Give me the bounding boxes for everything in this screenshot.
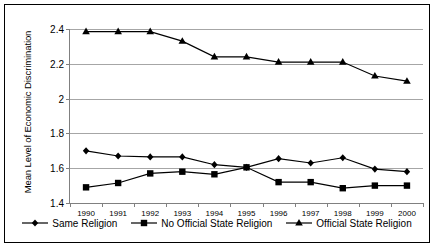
chart-frame: Mean Level of Economic Discrimination 1.… (4, 4, 430, 243)
data-point-marker (307, 159, 313, 166)
data-point-marker (82, 28, 90, 35)
x-axis-tick (166, 203, 167, 207)
x-axis-tick (327, 203, 328, 207)
data-point-marker (372, 182, 378, 188)
y-axis-tick-label: 1.4 (50, 198, 64, 209)
legend-item-no-official-state-religion[interactable]: No Official State Religion (131, 218, 272, 229)
legend-label: Official State Religion (316, 218, 411, 229)
series-no-official-state-religion (83, 164, 410, 191)
x-axis-tick (230, 203, 231, 207)
data-point-marker (243, 164, 249, 170)
y-axis-tick-label: 1.6 (50, 163, 64, 174)
x-axis-tick (198, 203, 199, 207)
y-axis-tick-label: 2.2 (50, 58, 64, 69)
y-axis-tick-label: 2.4 (50, 24, 64, 35)
y-axis-title: Mean Level of Economic Discrimination (19, 7, 37, 217)
data-point-marker (340, 154, 346, 161)
data-point-marker (211, 161, 217, 168)
legend-swatch-triangle-icon (286, 218, 312, 228)
data-point-marker (307, 58, 315, 65)
data-point-marker (307, 179, 313, 185)
data-point-marker (339, 58, 347, 65)
data-point-marker (372, 165, 378, 172)
x-axis-tick (134, 203, 135, 207)
data-point-marker (147, 170, 153, 176)
data-point-marker (404, 182, 410, 188)
data-point-marker (32, 219, 38, 226)
y-axis-tick-label: 2 (58, 93, 64, 104)
x-axis-tick (70, 203, 71, 207)
data-point-marker (179, 168, 185, 174)
x-axis-tick (263, 203, 264, 207)
data-point-marker (115, 180, 121, 186)
series-same-religion (83, 147, 410, 175)
chart-legend: Same ReligionNo Official State ReligionO… (5, 215, 429, 231)
data-point-marker (146, 28, 154, 35)
legend-item-same-religion[interactable]: Same Religion (22, 218, 117, 229)
x-axis-tick (295, 203, 296, 207)
x-axis-tick (359, 203, 360, 207)
legend-label: No Official State Religion (161, 218, 272, 229)
legend-swatch-diamond-icon (22, 218, 48, 228)
x-axis-tick (423, 203, 424, 207)
plot-box: 1.41.61.822.22.4 19901991199219931994199… (69, 29, 423, 204)
data-point-marker (340, 185, 346, 191)
data-point-marker (147, 153, 153, 160)
x-axis-tick (391, 203, 392, 207)
data-point-marker (211, 171, 217, 177)
data-point-marker (83, 184, 89, 190)
data-point-marker (141, 220, 147, 226)
data-point-marker (83, 147, 89, 154)
plot-area: 1.41.61.822.22.4 19901991199219931994199… (69, 24, 423, 209)
series-layer (70, 29, 423, 203)
data-point-marker (115, 152, 121, 159)
legend-item-official-state-religion[interactable]: Official State Religion (286, 218, 411, 229)
data-point-marker (179, 153, 185, 160)
data-point-marker (275, 155, 281, 162)
data-point-marker (243, 53, 251, 60)
legend-swatch-square-icon (131, 218, 157, 228)
data-point-marker (295, 219, 303, 226)
data-point-marker (404, 168, 410, 175)
series-official-state-religion (82, 28, 411, 84)
data-point-marker (275, 179, 281, 185)
data-point-marker (114, 28, 122, 35)
x-axis-tick (102, 203, 103, 207)
y-axis-tick-label: 1.8 (50, 128, 64, 139)
legend-label: Same Religion (52, 218, 117, 229)
